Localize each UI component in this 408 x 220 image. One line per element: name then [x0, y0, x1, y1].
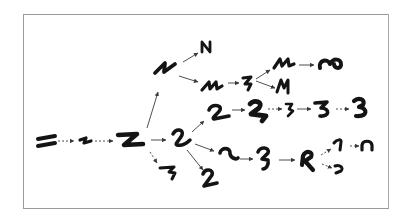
- edge-n2-n5: [147, 92, 158, 128]
- glyph-Z-narrow: [243, 77, 251, 90]
- glyph-small-zigzag: [80, 138, 91, 143]
- glyph-Z: [118, 134, 143, 145]
- edge-n20-n21: [321, 149, 331, 155]
- glyph-3: [315, 102, 328, 116]
- glyph-2-heavy: [250, 101, 266, 121]
- edge-n5-n6: [183, 53, 198, 62]
- glyph-N-slanted: [155, 63, 175, 73]
- glyph-M-lower: [277, 80, 288, 93]
- edge-n5-n7: [179, 76, 198, 82]
- edge-n2-n4: [150, 152, 157, 163]
- glyph-evolution-diagram: [0, 0, 408, 220]
- edge-n3-n18: [195, 144, 214, 151]
- edge-n3-n12: [192, 121, 204, 132]
- glyph-N: [202, 42, 210, 52]
- glyph-3-bold: [354, 99, 365, 116]
- glyph-R-like: [302, 152, 313, 170]
- glyph-c-reversed: [335, 165, 342, 173]
- edge-n8-n9: [256, 70, 270, 79]
- glyph-n-arch: [362, 141, 372, 150]
- edge-n3-n17: [187, 150, 203, 170]
- glyph-2: [209, 106, 229, 120]
- glyph-2-tall: [258, 148, 268, 169]
- glyph-2-cursive: [173, 130, 190, 145]
- glyph-double-bar: [38, 136, 55, 146]
- glyph-omega: [320, 60, 341, 68]
- glyph-1-hook: [334, 140, 341, 150]
- edge-n20-n22: [322, 164, 332, 168]
- glyph-3-flat: [160, 167, 175, 179]
- glyph-2-upright: [203, 170, 217, 186]
- glyph-2-round: [220, 149, 238, 159]
- glyph-3-small: [286, 104, 293, 116]
- edge-n8-n10: [256, 81, 275, 88]
- glyph-M-slanted: [202, 82, 222, 90]
- glyph-M-upper: [274, 59, 294, 68]
